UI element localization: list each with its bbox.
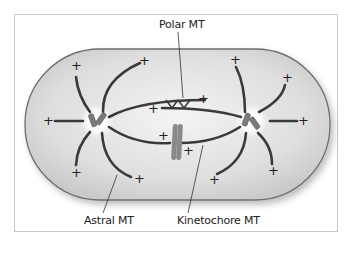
plus-end-marker: +: [268, 163, 279, 178]
plus-end-marker: +: [148, 101, 159, 116]
plus-end-marker: +: [158, 128, 169, 143]
plus-end-marker: +: [71, 165, 82, 180]
chromosome: [171, 124, 183, 160]
plus-end-marker: +: [43, 113, 54, 128]
plus-end-marker: +: [230, 52, 241, 67]
label-polar-mt: Polar MT: [159, 18, 204, 31]
plus-end-marker: +: [134, 171, 145, 186]
plus-end-marker: +: [282, 70, 293, 85]
plus-end-marker: +: [71, 58, 82, 73]
plus-end-marker: +: [198, 91, 209, 106]
label-kinetochore-mt: Kinetochore MT: [177, 214, 260, 227]
label-astral-mt: Astral MT: [84, 214, 134, 227]
plus-end-marker: +: [183, 143, 194, 158]
plus-end-marker: +: [139, 53, 150, 68]
plus-end-marker: +: [209, 172, 220, 187]
plus-end-marker: +: [298, 113, 309, 128]
